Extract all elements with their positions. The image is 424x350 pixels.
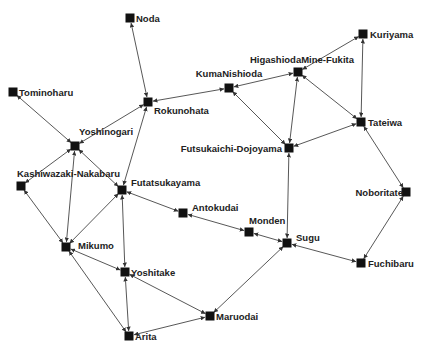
network-diagram: NodaTominoharuRokunohataYoshinogariKashi… <box>0 0 424 350</box>
node-square-icon[interactable] <box>357 118 366 127</box>
node-square-icon[interactable] <box>225 84 234 93</box>
node-square-icon[interactable] <box>125 332 134 341</box>
node-label: HigashiodaMine-Fukita <box>250 54 355 65</box>
node-Yoshinogari[interactable]: Yoshinogari <box>71 126 134 151</box>
node-square-icon[interactable] <box>62 243 71 252</box>
edge-KumaNishioda-Futsukaichi-Dojoyama <box>233 92 286 145</box>
node-label: Arita <box>135 331 157 342</box>
node-square-icon[interactable] <box>71 142 80 151</box>
node-square-icon[interactable] <box>206 312 215 321</box>
node-Noda[interactable]: Noda <box>126 13 161 24</box>
edge-Sugu-Futsukaichi-Dojoyama <box>287 153 289 238</box>
node-label: Monden <box>249 215 286 226</box>
node-HigashiodaMine-Fukita[interactable]: HigashiodaMine-Fukita <box>250 54 355 77</box>
edge-Monden-Sugu <box>254 233 282 241</box>
edge-Yoshinogari-Mikumo <box>66 151 74 242</box>
node-square-icon[interactable] <box>9 88 18 97</box>
node-label: Rokunohata <box>154 105 210 116</box>
node-label: Sugu <box>296 232 320 243</box>
node-label: Mikumo <box>78 240 114 251</box>
edge-Rokunohata-Futatsukayama <box>123 107 146 185</box>
node-Kashiwazaki-Nakabaru[interactable]: Kashiwazaki-Nakabaru <box>17 168 121 191</box>
node-label: Noda <box>136 13 160 24</box>
edge-Yoshitake-Maruodai <box>129 274 205 313</box>
edge-Antokudai-Monden <box>188 214 244 230</box>
edge-Kashiwazaki-Nakabaru-Mikumo <box>24 190 63 243</box>
node-label: Fuchibaru <box>368 258 414 269</box>
node-square-icon[interactable] <box>118 186 127 195</box>
edge-Mikumo-Yoshitake <box>71 249 121 270</box>
node-Kuriyama[interactable]: Kuriyama <box>359 29 415 40</box>
edge-Mikumo-Arita <box>69 251 126 332</box>
node-label: Yoshitake <box>131 267 175 278</box>
node-square-icon[interactable] <box>144 98 153 107</box>
node-label: Futatsukayama <box>131 177 201 188</box>
node-square-icon[interactable] <box>126 14 135 23</box>
node-Yoshitake[interactable]: Yoshitake <box>121 267 176 278</box>
node-square-icon[interactable] <box>357 259 366 268</box>
node-label: Antokudai <box>192 202 238 213</box>
edge-HigashiodaMine-Fukita-Futsukaichi-Dojoyama <box>290 77 298 143</box>
edge-Sugu-Fuchibaru <box>292 244 356 261</box>
node-label: Maruodai <box>216 311 258 322</box>
edge-Maruodai-Sugu <box>214 246 284 312</box>
edge-Tominoharu-Yoshinogari <box>17 95 71 142</box>
node-Tominoharu[interactable]: Tominoharu <box>9 87 74 98</box>
node-Tateiwa[interactable]: Tateiwa <box>357 117 403 128</box>
edge-Futatsukayama-Mikumo <box>70 194 119 244</box>
node-label: Noboritate <box>356 187 404 198</box>
edge-Futatsukayama-Yoshitake <box>122 195 125 267</box>
node-square-icon[interactable] <box>245 228 254 237</box>
edge-Noboritate-Tateiwa <box>364 126 404 188</box>
node-Sugu[interactable]: Sugu <box>283 232 320 248</box>
edge-Tateiwa-HigashiodaMine-Fukita <box>302 75 357 119</box>
node-label: Kashiwazaki-Nakabaru <box>17 168 120 179</box>
node-label: Kuriyama <box>370 29 414 40</box>
edge-Rokunohata-KumaNishioda <box>153 89 224 101</box>
node-Noboritate[interactable]: Noboritate <box>356 187 411 198</box>
node-square-icon[interactable] <box>283 239 292 248</box>
edge-Tateiwa-Futsukaichi-Dojoyama <box>294 124 357 147</box>
node-label: Tominoharu <box>19 87 73 98</box>
node-Antokudai[interactable]: Antokudai <box>179 202 239 218</box>
node-Rokunohata[interactable]: Rokunohata <box>144 98 210 117</box>
node-label: KumaNishioda <box>196 68 263 79</box>
edge-Noda-Rokunohata <box>131 23 147 97</box>
edge-Yoshitake-Arita <box>125 277 128 331</box>
edge-Fuchibaru-Noboritate <box>364 196 404 259</box>
node-KumaNishioda[interactable]: KumaNishioda <box>196 68 263 93</box>
node-label: Futsukaichi-Dojoyama <box>181 143 283 154</box>
node-square-icon[interactable] <box>121 268 130 277</box>
node-square-icon[interactable] <box>179 209 188 218</box>
edge-Tateiwa-Kuriyama <box>361 39 363 117</box>
node-square-icon[interactable] <box>285 144 294 153</box>
node-layer: NodaTominoharuRokunohataYoshinogariKashi… <box>9 13 415 342</box>
edge-Rokunohata-Yoshinogari <box>79 105 143 144</box>
node-label: Tateiwa <box>368 117 403 128</box>
node-square-icon[interactable] <box>294 68 303 77</box>
edge-Futatsukayama-Antokudai <box>127 192 179 211</box>
node-Mikumo[interactable]: Mikumo <box>62 240 115 252</box>
node-label: Yoshinogari <box>79 126 133 137</box>
node-square-icon[interactable] <box>17 182 26 191</box>
node-Futatsukayama[interactable]: Futatsukayama <box>118 177 201 195</box>
node-Maruodai[interactable]: Maruodai <box>206 311 259 322</box>
node-Fuchibaru[interactable]: Fuchibaru <box>357 258 415 269</box>
node-Monden[interactable]: Monden <box>245 215 286 237</box>
node-Futsukaichi-Dojoyama[interactable]: Futsukaichi-Dojoyama <box>181 143 294 154</box>
node-square-icon[interactable] <box>359 30 368 39</box>
node-Arita[interactable]: Arita <box>125 331 158 342</box>
